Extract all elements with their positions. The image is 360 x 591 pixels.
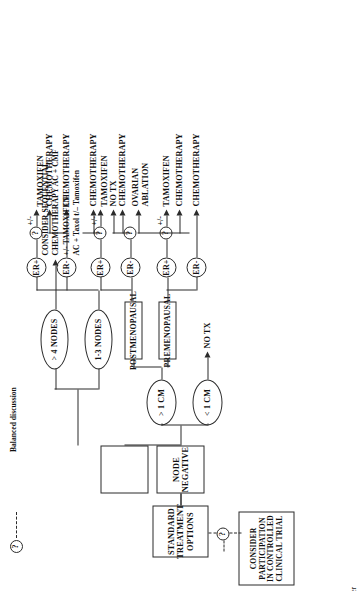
- connector-nodepos-right: [77, 389, 78, 445]
- node-premenopausal-label: PREMENOPAUSAL: [163, 293, 172, 367]
- connector-n13-q-tamox: [36, 215, 37, 226]
- node-node-negative-label: NODE NEGATIVE: [171, 446, 190, 491]
- connector-postmeno-erpos-fan: [82, 232, 100, 233]
- connector-gt1cm-right: [161, 367, 162, 379]
- arrow-n4-sequential: [52, 259, 58, 265]
- arrow-premeno-erneg-chemo: [193, 209, 199, 215]
- connector-premeno-q-tamox: [166, 215, 167, 226]
- arrow-premeno-q-chemo: [176, 209, 182, 215]
- connector-n4-out: [55, 265, 56, 309]
- node-size-lt-1cm[interactable]: < 1 CM: [192, 379, 222, 425]
- connector-n13-out: [98, 290, 99, 309]
- connector-n13-erpos-q: [36, 239, 37, 257]
- connector-premeno-q-ovarian: [138, 215, 139, 233]
- connector-premeno-erneg-chemo: [196, 215, 197, 257]
- node-size-gt-1cm-label: > 1 CM: [157, 388, 166, 415]
- n13-er-pos-label: ER+: [32, 259, 41, 275]
- connector-n13-to-erneg: [66, 277, 67, 291]
- connector-postmeno-erneg-chemo: [122, 215, 123, 233]
- arrow-postmeno-erpos-tamox: [97, 209, 103, 215]
- arrow-lt1cm-notx: [204, 351, 210, 357]
- outcome-premeno-erpos-ovarian: OVARIAN ABLATION: [130, 162, 151, 206]
- connector-n13-to-erpos: [36, 277, 37, 291]
- connector-premeno-q-chemo: [179, 215, 180, 233]
- node-postmenopausal[interactable]: POSTMENOPAUSAL: [124, 301, 142, 359]
- connector-premeno-erpos-q: [166, 239, 167, 257]
- connector-meno-split: [133, 366, 161, 367]
- connector-to-postmeno: [133, 359, 134, 368]
- premeno-er-neg-label: ER-: [192, 260, 201, 274]
- arrow-postmeno-erneg-chemo: [119, 209, 125, 215]
- n13-question-label: ?: [31, 230, 40, 234]
- connector-to-premeno: [167, 359, 168, 368]
- connector-to-nodes4: [55, 369, 56, 390]
- arrow-postmeno-erneg-notx: [110, 209, 116, 215]
- arrow-postmeno-erpos-chemo: [90, 209, 96, 215]
- node-nodes-1-3[interactable]: 1-3 NODES: [84, 309, 112, 369]
- figure-caption: Fig. 1. Algorithm for adjuvant therapy i…: [349, 587, 358, 591]
- outcome-premeno-erpos-tamoxifen: TAMOXIFEN: [161, 155, 171, 206]
- connector-nodeneg-right: [180, 425, 181, 445]
- figure-legend: ? Balanced discussion: [2, 496, 360, 591]
- arrow-n13-q-tamox: [33, 209, 39, 215]
- node-size-lt-1cm-label: < 1 CM: [203, 388, 212, 415]
- connector-lt1cm-notx: [207, 357, 208, 379]
- node-n13-er-neg[interactable]: ER-: [56, 257, 76, 277]
- connector-nodepos-vert: [124, 444, 180, 445]
- connector-to-lt1cm: [207, 424, 208, 426]
- node-nodes-1-3-label: 1-3 NODES: [94, 318, 103, 360]
- outcome-no-tx-small: NO TX: [202, 322, 212, 348]
- legend-question-label: ?: [12, 544, 21, 548]
- node-premeno-er-pos[interactable]: ER+: [156, 257, 176, 277]
- premeno-er-pos-label: ER+: [162, 259, 171, 275]
- node-postmeno-er-pos[interactable]: ER+: [90, 257, 110, 277]
- n13-er-neg-label: ER-: [62, 260, 71, 274]
- postmeno-er-pos-label: ER+: [96, 259, 105, 275]
- node-size-gt-1cm[interactable]: > 1 CM: [146, 379, 176, 425]
- connector-premeno-er-split: [166, 289, 196, 290]
- arrow-premeno-q-tamox: [163, 209, 169, 215]
- legend-text: Balanced discussion: [9, 387, 18, 452]
- legend-dashes: [16, 512, 17, 538]
- label-premeno-plus-minus: +/-: [155, 216, 164, 225]
- connector-postmeno-erneg-notx: [113, 215, 114, 233]
- postmeno-er-neg-label: ER-: [126, 260, 135, 274]
- outcome-sequential-chemo-block: CONSIDER SEQUENTIAL CHEMOTHERAPY AC + CM…: [40, 149, 81, 255]
- outcome-premeno-erneg-chemo: CHEMOTHERAPY: [191, 133, 201, 206]
- label-n13-plus-minus: +/-: [25, 216, 34, 225]
- connector-postmeno-to-erpos: [100, 277, 101, 291]
- connector-to-nodes13: [98, 369, 99, 390]
- legend-question-icon: ?: [10, 540, 23, 553]
- connector-nodes-split: [54, 388, 98, 389]
- node-node-positive[interactable]: [100, 445, 148, 493]
- node-postmeno-er-neg[interactable]: ER-: [120, 257, 140, 277]
- node-premeno-er-neg[interactable]: ER-: [186, 257, 206, 277]
- connector-postmeno-erpos-q: [100, 239, 101, 257]
- connector-nodeneg-split: [161, 424, 207, 425]
- connector-premeno-q-fan: [137, 232, 189, 233]
- connector-postmeno-erneg-q: [130, 239, 131, 257]
- node-n13-er-pos[interactable]: ER+: [26, 257, 46, 277]
- arrow-premeno-q-ovarian: [135, 209, 141, 215]
- connector-postmeno-erpos-tamox: [100, 215, 101, 226]
- outcome-premeno-erpos-chemo: CHEMOTHERAPY: [174, 133, 184, 206]
- connector-postmeno-er-split: [100, 289, 131, 290]
- node-node-negative[interactable]: NODE NEGATIVE: [156, 445, 204, 493]
- outcome-postmeno-erpos-chemo: CHEMOTHERAPY: [88, 133, 98, 206]
- figure-caption-text: Algorithm for adjuvant therapy in early …: [349, 587, 358, 591]
- connector-premeno-to-erneg: [196, 277, 197, 291]
- outcome-postmeno-erpos-tamoxifen: TAMOXIFEN: [99, 155, 109, 206]
- node-nodes-gt-4-label: > 4 NODES: [50, 318, 59, 360]
- node-premenopausal[interactable]: PREMENOPAUSAL: [158, 301, 176, 359]
- figure-page: STANDARD TREATMENT OPTIONS CONSIDER PART…: [0, 0, 360, 591]
- connector-to-gt1cm: [161, 424, 162, 426]
- node-postmenopausal-label: POSTMENOPAUSAL: [129, 291, 138, 370]
- node-nodes-gt-4[interactable]: > 4 NODES: [40, 309, 68, 369]
- connector-postmeno-erneg-fan: [112, 232, 130, 233]
- label-postmeno-plus-minus: +/-: [89, 216, 98, 225]
